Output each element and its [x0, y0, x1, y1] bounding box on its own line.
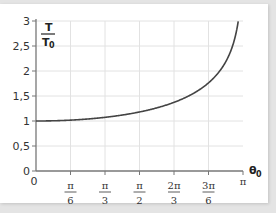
svg-text:2: 2 [136, 195, 142, 206]
svg-text:π: π [67, 180, 74, 191]
svg-text:π: π [240, 176, 247, 187]
svg-text:π: π [102, 180, 109, 191]
y-tick-label: 1 [23, 115, 30, 128]
svg-text:T: T [45, 21, 53, 34]
svg-text:3: 3 [171, 195, 177, 206]
pendulum-period-chart: 00,511,522,53 0π6π3π22π33π6π T T 0 θ 0 [0, 0, 276, 213]
svg-text:6: 6 [67, 195, 73, 206]
x-tick-label: π6 [65, 180, 77, 206]
x-tick-label: π [240, 176, 247, 187]
y-tick-label: 2,5 [13, 40, 31, 53]
svg-text:π: π [136, 180, 143, 191]
svg-text:6: 6 [205, 195, 211, 206]
svg-text:2π: 2π [168, 180, 181, 191]
y-tick-label: 3 [23, 15, 30, 28]
grid-lines [36, 21, 243, 171]
x-axis-title: θ 0 [249, 164, 262, 179]
svg-text:0: 0 [49, 41, 55, 50]
x-tick-label: π2 [134, 180, 146, 206]
svg-text:0: 0 [31, 175, 38, 188]
y-tick-label: 0 [23, 165, 30, 178]
y-axis-title: T T 0 [41, 21, 55, 50]
y-tick-label: 0,5 [13, 140, 31, 153]
x-axis-ticks: 0π6π3π22π33π6π [31, 171, 247, 206]
svg-text:0: 0 [256, 170, 262, 179]
y-tick-label: 1,5 [13, 90, 31, 103]
y-axis-ticks: 00,511,522,53 [13, 15, 37, 178]
x-tick-label: 3π6 [202, 180, 215, 206]
svg-text:3: 3 [102, 195, 108, 206]
x-tick-label: π3 [99, 180, 111, 206]
x-tick-label: 0 [31, 175, 38, 188]
svg-text:3π: 3π [202, 180, 215, 191]
y-tick-label: 2 [23, 65, 30, 78]
x-tick-label: 2π3 [168, 180, 181, 206]
